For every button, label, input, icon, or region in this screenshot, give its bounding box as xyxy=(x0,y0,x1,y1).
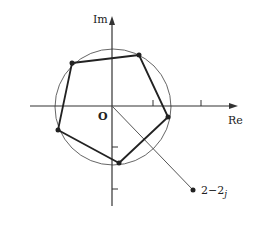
vertex-dot xyxy=(117,161,122,166)
complex-plane-figure: Im Re O 2−2j xyxy=(0,0,258,227)
vertex-dot xyxy=(56,128,61,133)
vertex-dot xyxy=(70,61,75,66)
real-axis-arrow-icon xyxy=(229,103,238,109)
imag-axis-arrow-icon xyxy=(109,16,115,25)
vector-to-point xyxy=(112,106,193,190)
point-label: 2−2j xyxy=(201,184,227,199)
real-axis-label: Re xyxy=(228,114,243,127)
point-label-main: 2−2 xyxy=(201,184,224,197)
vertex-dot xyxy=(166,115,171,120)
vertex-dot xyxy=(137,53,142,58)
origin-label: O xyxy=(98,110,108,123)
imag-axis-label: Im xyxy=(93,13,108,26)
point-dot xyxy=(191,188,196,193)
